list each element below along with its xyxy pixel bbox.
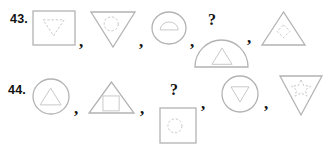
star-inner-outline	[291, 80, 310, 96]
figure-square-containing-triangle-down	[33, 11, 75, 45]
triangle-down-inner-outline	[231, 87, 249, 102]
figure-circle-containing-semicircle	[152, 12, 186, 44]
circle-outline	[152, 12, 186, 44]
square-outline	[160, 108, 196, 143]
diamond-inner-outline	[277, 25, 290, 38]
triangle-up-inner-outline	[212, 48, 232, 64]
figure-triangle-up-containing-square	[89, 82, 134, 113]
separator-comma: ,	[201, 95, 205, 112]
separator-comma: ,	[74, 100, 78, 117]
figure-square-containing-circle	[160, 108, 196, 143]
semicircle-outline	[195, 40, 248, 67]
missing-item-question-mark: ?	[170, 82, 178, 98]
separator-comma: ,	[264, 95, 268, 112]
figure-circle-containing-triangle-down	[222, 76, 258, 112]
square-inner-outline	[103, 96, 119, 111]
figure-triangle-down-containing-star	[280, 76, 322, 115]
semicircle-inner-outline	[160, 22, 178, 30]
triangle-up-inner-outline	[40, 88, 61, 105]
separator-comma: ,	[139, 33, 143, 50]
figure-circle-containing-triangle-up	[33, 79, 69, 114]
separator-comma: ,	[140, 100, 144, 117]
circle-outline	[222, 76, 258, 112]
square-outline	[33, 11, 75, 45]
figure-triangle-up-containing-diamond	[262, 12, 305, 45]
separator-comma: ,	[79, 33, 83, 50]
separator-comma: ,	[190, 33, 194, 50]
shape-sequences-layer	[0, 0, 332, 149]
circle-inner-outline	[168, 119, 182, 133]
puzzle-canvas: 43. 44. ,,,?,,,?,,	[0, 0, 332, 149]
triangle-up-outline	[89, 82, 134, 113]
triangle-down-outline	[280, 76, 322, 115]
triangle-down-inner-outline	[43, 20, 64, 36]
separator-comma: ,	[247, 29, 251, 46]
figure-semicircle-containing-triangle-up	[195, 40, 248, 67]
triangle-up-outline	[262, 12, 305, 45]
circle-outline	[33, 79, 69, 114]
missing-item-question-mark: ?	[208, 12, 216, 28]
figure-triangle-down-containing-circle	[91, 12, 135, 47]
circle-inner-outline	[104, 17, 118, 31]
